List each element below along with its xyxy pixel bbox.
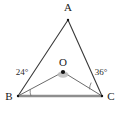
vertex-label-B: B xyxy=(5,90,12,102)
point-A-dot xyxy=(67,19,69,21)
point-B-dot xyxy=(17,95,19,97)
geometry-canvas: A B C O 24° 36° xyxy=(0,0,120,116)
vertex-label-O: O xyxy=(59,56,67,68)
geometry-figure: A B C O 24° 36° xyxy=(0,0,120,116)
segment-side-AC xyxy=(68,20,102,96)
vertex-label-C: C xyxy=(107,90,114,102)
angle-label-at-C: 36° xyxy=(95,67,108,77)
point-C-dot xyxy=(101,95,103,97)
angle-label-at-B: 24° xyxy=(16,67,29,77)
vertex-label-A: A xyxy=(64,1,72,13)
point-O-dot xyxy=(61,70,65,74)
